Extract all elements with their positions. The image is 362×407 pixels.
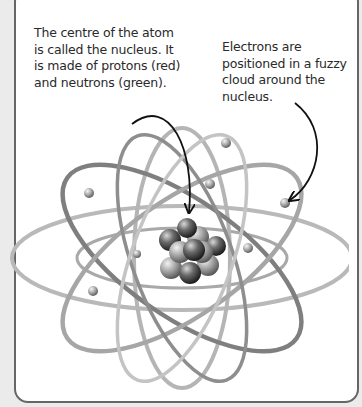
electron [280,198,290,208]
electron [88,286,98,296]
proton [177,218,197,238]
electron [205,179,215,189]
electron [243,243,253,253]
proton [179,262,201,284]
electron [133,250,141,258]
electron [221,138,231,148]
electron [84,188,94,198]
proton [183,239,205,261]
electrons-arrow [290,103,317,200]
